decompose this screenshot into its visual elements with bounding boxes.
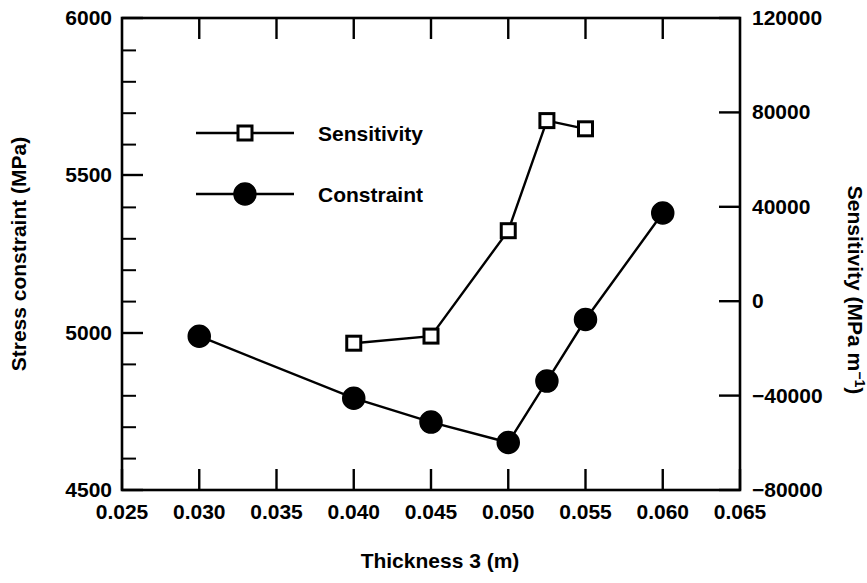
series-sensitivity — [347, 114, 593, 351]
y-right-axis-title: Sensitivity (MPa m−1) — [844, 186, 867, 395]
legend-marker-filled-circle — [234, 183, 256, 205]
series-constraint-marker — [497, 432, 519, 454]
x-tick-8: 0.065 — [714, 500, 767, 523]
series-sensitivity-marker — [501, 224, 515, 238]
legend-label-sensitivity: Sensitivity — [318, 122, 423, 145]
y-right-tick-neg80000: −80000 — [752, 478, 823, 501]
x-tick-5: 0.050 — [482, 500, 535, 523]
series-constraint-marker — [188, 325, 210, 347]
y-right-tick-120000: 120000 — [752, 6, 822, 29]
x-tick-7: 0.060 — [636, 500, 689, 523]
series-constraint-marker — [575, 309, 597, 331]
series-constraint-marker — [536, 370, 558, 392]
x-tick-4: 0.045 — [405, 500, 458, 523]
series-sensitivity-marker — [579, 122, 593, 136]
y-right-tick-40000: 40000 — [752, 195, 810, 218]
y-right-ticks — [719, 18, 740, 490]
y-left-tick-5500: 5500 — [65, 163, 112, 186]
series-sensitivity-line — [354, 121, 586, 344]
x-tick-6: 0.055 — [559, 500, 612, 523]
series-constraint-marker — [420, 411, 442, 433]
y-left-tick-5000: 5000 — [65, 321, 112, 344]
series-sensitivity-marker — [540, 114, 554, 128]
y-right-tick-0: 0 — [752, 289, 764, 312]
series-sensitivity-marker — [424, 329, 438, 343]
series-constraint-marker — [343, 387, 365, 409]
x-tick-3: 0.040 — [327, 500, 380, 523]
series-sensitivity-marker — [347, 336, 361, 350]
x-ticklabels: 0.025 0.030 0.035 0.040 0.045 0.050 0.05… — [96, 500, 767, 523]
y-right-ticklabels: −80000 −40000 0 40000 80000 120000 — [752, 6, 823, 501]
y-left-ticklabels: 4500 5000 5500 6000 — [65, 6, 112, 501]
legend-entry-sensitivity: Sensitivity — [196, 122, 423, 145]
y-left-tick-6000: 6000 — [65, 6, 112, 29]
x-tick-2: 0.035 — [250, 500, 303, 523]
chart-figure: 4500 5000 5500 6000 Stress constraint (M… — [0, 0, 867, 583]
legend-label-constraint: Constraint — [318, 183, 423, 206]
y-right-tick-80000: 80000 — [752, 100, 810, 123]
x-axis-title: Thickness 3 (m) — [361, 549, 520, 572]
y-left-axis-title-group: Stress constraint (MPa) — [7, 137, 30, 372]
y-right-axis-title-group: Sensitivity (MPa m−1) — [844, 186, 867, 395]
y-right-tick-neg40000: −40000 — [752, 384, 823, 407]
y-right-axis-title-tail: ) — [844, 387, 867, 394]
y-left-ticks — [122, 18, 143, 490]
chart-svg: 4500 5000 5500 6000 Stress constraint (M… — [0, 0, 867, 583]
y-left-tick-4500: 4500 — [65, 478, 112, 501]
legend-entry-constraint: Constraint — [196, 183, 423, 206]
x-tick-0: 0.025 — [96, 500, 149, 523]
legend: Sensitivity Constraint — [196, 122, 423, 206]
y-right-axis-title-main: Sensitivity (MPa m — [844, 186, 867, 372]
y-left-axis-title: Stress constraint (MPa) — [7, 137, 30, 372]
x-tick-1: 0.030 — [173, 500, 226, 523]
legend-marker-open-square — [238, 126, 252, 140]
y-right-axis-title-superscript: −1 — [852, 371, 867, 387]
series-constraint-marker — [652, 202, 674, 224]
